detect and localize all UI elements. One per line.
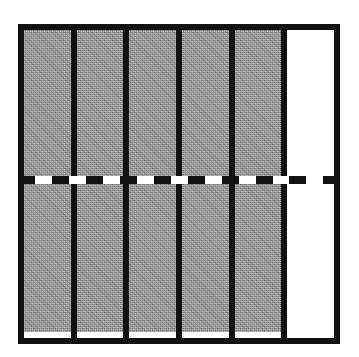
bar-fill-5 (235, 30, 282, 332)
bar-fill-1 (24, 30, 71, 332)
bar-column-2[interactable]: 100 (71, 30, 124, 338)
bar-chart-frame: 100 100 100 100 100 0 (18, 24, 340, 344)
bar-value-6: 0 (287, 30, 288, 31)
figure-canvas: 100 100 100 100 100 0 (0, 0, 359, 357)
bar-column-3[interactable]: 100 (123, 30, 176, 338)
bar-column-5[interactable]: 100 (229, 30, 282, 338)
bar-column-6[interactable]: 0 (281, 30, 334, 338)
bars-area: 100 100 100 100 100 0 (24, 30, 334, 338)
bar-fill-4 (182, 30, 229, 332)
bar-fill-3 (129, 30, 176, 332)
bar-column-1[interactable]: 100 (24, 30, 71, 338)
bar-column-4[interactable]: 100 (176, 30, 229, 338)
bar-fill-2 (77, 30, 124, 332)
